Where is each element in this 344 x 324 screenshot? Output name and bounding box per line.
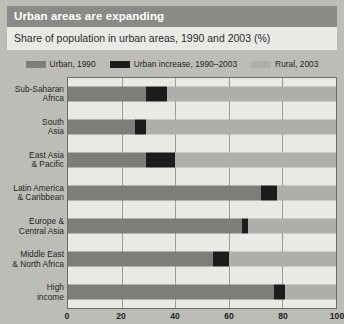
x-tick-label: 0 (65, 311, 70, 321)
chart-subtitle: Share of population in urban areas, 1990… (7, 27, 337, 51)
bar-row[interactable] (68, 218, 336, 233)
x-tick-label: 20 (116, 311, 126, 321)
legend-swatch (251, 61, 271, 68)
bar-row[interactable] (68, 87, 336, 102)
bar-segment (68, 87, 146, 102)
chart-figure: Urban areas are expanding Share of popul… (0, 0, 344, 324)
category-label: Latin America & Caribbean (13, 184, 64, 203)
category-label: East Asia & Pacific (29, 150, 64, 169)
bar-segment (175, 153, 336, 168)
plot-area-wrapper: Sub-Saharan AfricaSouth AsiaEast Asia & … (7, 77, 337, 309)
bar-segment (68, 186, 261, 201)
bar-segment (68, 251, 213, 266)
category-label: Europe & Central Asia (19, 217, 64, 236)
x-tick-label: 40 (170, 311, 180, 321)
category-label: Sub-Saharan Africa (15, 84, 64, 103)
bar-row[interactable] (68, 284, 336, 299)
legend-label: Urban increase, 1990–2003 (134, 59, 237, 69)
category-label: Middle East & North Africa (12, 250, 64, 269)
legend-item[interactable]: Rural, 2003 (251, 59, 318, 69)
bar-segment (146, 153, 175, 168)
bar-segment (248, 218, 336, 233)
bar-segment (167, 87, 336, 102)
legend-swatch (26, 61, 46, 68)
bar-segment (285, 284, 336, 299)
x-axis: 020406080100 (67, 309, 337, 324)
bar-row[interactable] (68, 251, 336, 266)
category-axis: Sub-Saharan AfricaSouth AsiaEast Asia & … (7, 77, 67, 309)
bar-segment (146, 120, 336, 135)
x-tick-label: 100 (330, 311, 344, 321)
x-tick-label: 60 (224, 311, 234, 321)
bar-segment (146, 87, 167, 102)
bar-segment (229, 251, 336, 266)
bar-segment (135, 120, 146, 135)
chart-legend: Urban, 1990Urban increase, 1990–2003Rura… (7, 51, 337, 77)
bar-segment (274, 284, 285, 299)
x-tick-label: 80 (278, 311, 288, 321)
bar-segment (213, 251, 229, 266)
bar-row[interactable] (68, 120, 336, 135)
legend-swatch (110, 61, 130, 68)
legend-label: Rural, 2003 (275, 59, 318, 69)
bar-segment (68, 120, 135, 135)
legend-label: Urban, 1990 (50, 59, 96, 69)
legend-item[interactable]: Urban, 1990 (26, 59, 96, 69)
plot-area (67, 77, 337, 309)
bar-row[interactable] (68, 186, 336, 201)
bar-row[interactable] (68, 153, 336, 168)
bar-segment (68, 218, 242, 233)
category-label: High income (37, 283, 64, 302)
legend-item[interactable]: Urban increase, 1990–2003 (110, 59, 237, 69)
category-label: South Asia (42, 117, 64, 136)
bar-segment (68, 153, 146, 168)
bar-segment (261, 186, 277, 201)
bar-segment (68, 284, 274, 299)
chart-title: Urban areas are expanding (7, 6, 337, 27)
bar-segment (277, 186, 336, 201)
